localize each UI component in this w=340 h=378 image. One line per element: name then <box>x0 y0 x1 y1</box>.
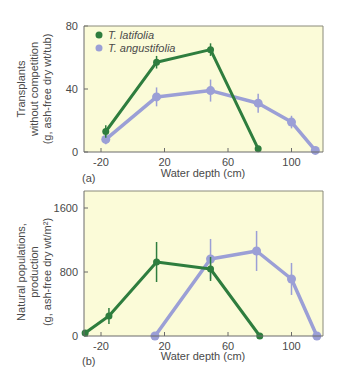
y-tick-label: 0 <box>72 330 78 342</box>
data-point <box>207 265 214 272</box>
plot-area-b <box>84 191 323 336</box>
panel-label-a: (a) <box>82 172 95 184</box>
data-point <box>207 46 214 53</box>
y-tick-label: 0 <box>72 146 78 158</box>
data-point <box>152 92 161 101</box>
y-axis-title-b: Natural populations, production (g, ash-… <box>15 218 53 326</box>
data-point <box>254 99 263 108</box>
y-axis-title-a-line2: without competition <box>28 42 40 137</box>
y-axis-ticks-b: 08001600 <box>54 202 88 342</box>
legend-marker-latifolia <box>96 32 103 39</box>
y-axis-title-a-line1: Transplants <box>15 60 27 118</box>
data-point <box>206 86 215 95</box>
chart-figure: 04080 -202060100 T. latifolia T. angusti… <box>0 0 340 378</box>
y-axis-title-b-line3: (g, ash-free dry wt/m²) <box>41 218 53 326</box>
data-point <box>82 329 89 336</box>
data-point <box>153 59 160 66</box>
data-point <box>311 146 320 155</box>
chart-panel-a: 04080 -202060100 T. latifolia T. angusti… <box>15 20 323 184</box>
y-axis-title-a-line3: (g, ash-free dry wt/tub) <box>41 34 53 145</box>
legend-label-angustifolia: T. angustifolia <box>108 42 175 54</box>
chart-panel-b: 08001600 -202060100 Water depth (cm) (b)… <box>15 191 323 367</box>
x-tick-label: -20 <box>93 156 109 168</box>
data-point <box>287 118 296 127</box>
data-point <box>287 274 296 283</box>
x-tick-label: 100 <box>282 156 300 168</box>
x-axis-title-a: Water depth (cm) <box>161 167 246 179</box>
data-point <box>102 128 109 135</box>
legend-label-latifolia: T. latifolia <box>108 29 154 41</box>
y-tick-label: 1600 <box>54 202 78 214</box>
data-point <box>153 259 160 266</box>
legend-marker-angustifolia <box>96 45 103 52</box>
x-axis-title-b: Water depth (cm) <box>161 350 246 362</box>
y-tick-label: 800 <box>60 266 78 278</box>
y-axis-title-a: Transplants without competition (g, ash-… <box>15 34 53 145</box>
y-axis-title-b-line2: production <box>28 246 40 297</box>
data-point <box>252 246 261 255</box>
y-tick-label: 80 <box>66 20 78 32</box>
x-tick-label: 100 <box>282 340 300 352</box>
data-point <box>105 313 112 320</box>
x-tick-label: -20 <box>93 340 109 352</box>
y-tick-label: 40 <box>66 83 78 95</box>
data-point <box>255 145 262 152</box>
panel-label-b: (b) <box>82 355 95 367</box>
y-axis-title-b-line1: Natural populations, <box>15 223 27 321</box>
